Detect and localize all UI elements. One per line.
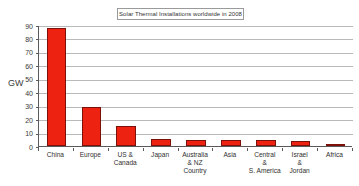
y-tick-label: 30	[8, 103, 33, 110]
y-tick-label: 10	[8, 130, 33, 137]
bar	[82, 107, 102, 146]
bar	[151, 139, 171, 146]
chart-title-box: Solar Thermal Installations worldwide in…	[117, 8, 244, 20]
x-category-label: Australia& NZ	[178, 151, 213, 167]
x-category-label-line: & NZ	[178, 159, 213, 167]
x-category-label: China	[38, 151, 73, 159]
x-category-label: Asia	[212, 151, 247, 159]
x-category-label-line: Australia	[178, 151, 213, 159]
y-tick-mark	[36, 80, 39, 81]
gridline	[39, 66, 353, 67]
bar	[116, 126, 136, 146]
x-axis-title: Country	[178, 167, 213, 175]
x-category-label-line: Europe	[73, 151, 108, 159]
x-category-label-line: China	[38, 151, 73, 159]
y-tick-label: 70	[8, 49, 33, 56]
bar	[221, 140, 241, 146]
x-category-label: Israel&Jordan	[282, 151, 317, 175]
y-tick-label: 60	[8, 63, 33, 70]
x-category-label-line: Israel	[282, 151, 317, 159]
bar	[47, 28, 67, 146]
plot-area	[38, 26, 352, 147]
x-tick-mark	[352, 148, 353, 151]
y-tick-label: 80	[8, 36, 33, 43]
y-tick-mark	[36, 120, 39, 121]
bar	[256, 140, 276, 146]
y-tick-mark	[36, 39, 39, 40]
x-category-label-line: Asia	[212, 151, 247, 159]
y-tick-mark	[36, 53, 39, 54]
y-tick-mark	[36, 107, 39, 108]
y-tick-mark	[36, 134, 39, 135]
y-tick-label: 20	[8, 117, 33, 124]
bar	[291, 141, 311, 146]
x-category-label-line: &	[282, 159, 317, 167]
x-category-label: US &Canada	[108, 151, 143, 167]
gridline	[39, 26, 353, 27]
x-category-label-line: &	[247, 159, 282, 167]
y-tick-mark	[36, 93, 39, 94]
gridline	[39, 53, 353, 54]
y-tick-mark	[36, 26, 39, 27]
x-category-label-line: Jordan	[282, 167, 317, 175]
solar-thermal-bar-chart: Solar Thermal Installations worldwide in…	[0, 0, 359, 186]
x-category-label-line: US &	[108, 151, 143, 159]
x-category-label: Europe	[73, 151, 108, 159]
x-category-label: Japan	[143, 151, 178, 159]
gridline	[39, 39, 353, 40]
chart-title: Solar Thermal Installations worldwide in…	[119, 10, 242, 18]
x-category-label-line: S. America	[247, 167, 282, 175]
x-category-label-line: Canada	[108, 159, 143, 167]
bar	[186, 140, 206, 146]
y-tick-label: 40	[8, 90, 33, 97]
y-tick-label: 50	[8, 76, 33, 83]
x-category-label-line: Japan	[143, 151, 178, 159]
y-tick-label: 0	[8, 144, 33, 151]
y-tick-mark	[36, 66, 39, 67]
y-tick-label: 90	[8, 23, 33, 30]
gridline	[39, 93, 353, 94]
bar	[326, 144, 346, 146]
gridline	[39, 80, 353, 81]
x-category-label-line: Central	[247, 151, 282, 159]
x-category-label-line: Africa	[317, 151, 352, 159]
x-category-label: Africa	[317, 151, 352, 159]
x-category-label: Central&S. America	[247, 151, 282, 175]
